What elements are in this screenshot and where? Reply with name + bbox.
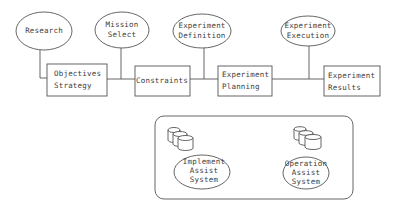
label-experiment-results: Experiment Results bbox=[328, 71, 375, 93]
label-research: Research bbox=[16, 26, 72, 36]
label-constraints: Constraints bbox=[136, 76, 188, 86]
label-objectives-strategy: Objectives Strategy bbox=[54, 69, 101, 91]
database-stack-icon bbox=[168, 128, 193, 151]
connector-research bbox=[40, 50, 47, 78]
database-stack-icon bbox=[294, 127, 321, 150]
label-experiment-execution: Experiment Execution bbox=[281, 21, 335, 41]
label-operation-assist-system: Operation Assist System bbox=[283, 159, 329, 186]
label-implement-assist-system: Implement Assist System bbox=[176, 157, 232, 184]
label-experiment-definition: Experiment Definition bbox=[173, 21, 231, 41]
label-experiment-planning: Experiment Planning bbox=[222, 70, 269, 92]
label-mission-select: Mission Select bbox=[95, 20, 149, 40]
